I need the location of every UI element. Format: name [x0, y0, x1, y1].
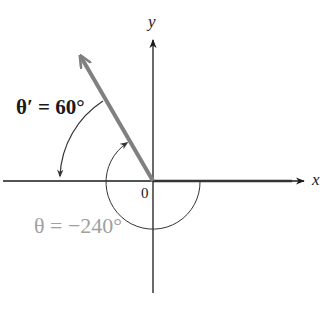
reference-angle-label: θ′ = 60°	[16, 95, 85, 119]
y-axis-label: y	[146, 12, 156, 31]
terminal-ray	[81, 57, 153, 181]
x-axis-label: x	[311, 170, 320, 189]
angle-label: θ = −240°	[34, 213, 122, 238]
origin-label: 0	[141, 185, 149, 201]
angle-diagram: y x 0 θ′ = 60° θ = −240°	[0, 0, 327, 312]
